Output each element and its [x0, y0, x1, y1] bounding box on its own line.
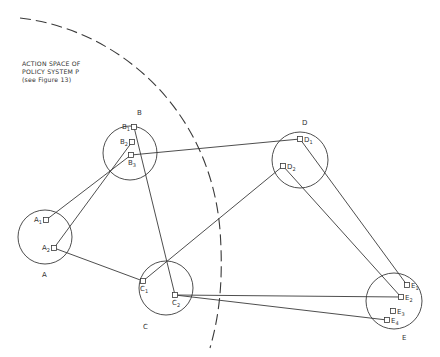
node-e3: E3 [391, 308, 405, 317]
links-layer [46, 127, 407, 320]
link-d1-e1 [300, 139, 407, 285]
node-label: B1 [122, 123, 130, 132]
link-d2-e2 [283, 166, 401, 297]
cluster-a-label: A [42, 271, 47, 279]
node-label: E1 [411, 282, 419, 291]
cluster-c-label: C [143, 323, 148, 331]
link-c2-e4 [175, 295, 387, 320]
node-e1: E1 [405, 282, 419, 291]
node-marker-square [44, 218, 49, 223]
node-label: E2 [405, 294, 413, 303]
link-b1-c2 [134, 127, 175, 295]
node-marker-square [132, 125, 137, 130]
node-marker-square [298, 137, 303, 142]
link-a2-c1 [54, 248, 143, 281]
node-marker-square [129, 153, 134, 158]
node-a1: A1 [34, 216, 48, 225]
node-d1: D1 [298, 136, 313, 145]
node-marker-square [130, 140, 135, 145]
link-a1-b3 [46, 155, 131, 220]
policy-network-diagram: ABCDE A1A2B1B2B3C1C2D1D2E1E2E3E4 [0, 0, 440, 357]
node-label: B2 [120, 138, 128, 147]
node-b2: B2 [120, 138, 135, 147]
node-label: C2 [172, 299, 180, 308]
cluster-d-label: D [302, 119, 307, 127]
node-label: D1 [304, 136, 313, 145]
node-label: A2 [42, 244, 50, 253]
node-marker-square [399, 295, 404, 300]
node-label: A1 [34, 216, 42, 225]
node-label: B3 [128, 159, 136, 168]
node-c1: C1 [140, 279, 148, 295]
node-marker-square [405, 283, 410, 288]
node-a2: A2 [42, 244, 56, 253]
cluster-b-label: B [137, 109, 142, 117]
node-marker-square [173, 293, 178, 298]
node-b1: B1 [122, 123, 137, 132]
node-marker-square [385, 318, 390, 323]
node-label: D2 [287, 163, 296, 172]
cluster-e-label: E [402, 334, 406, 342]
node-label: E4 [391, 317, 399, 326]
node-marker-square [52, 246, 57, 251]
node-label: E3 [397, 308, 405, 317]
node-marker-square [141, 279, 146, 284]
link-a2-b2 [54, 142, 132, 248]
link-c1-d2 [143, 166, 283, 281]
node-label: C1 [140, 285, 148, 294]
node-e2: E2 [399, 294, 413, 303]
node-e4: E4 [385, 317, 399, 326]
node-marker-square [391, 309, 396, 314]
node-marker-square [281, 164, 286, 169]
link-c2-e2 [175, 295, 401, 297]
node-d2: D2 [281, 163, 296, 172]
